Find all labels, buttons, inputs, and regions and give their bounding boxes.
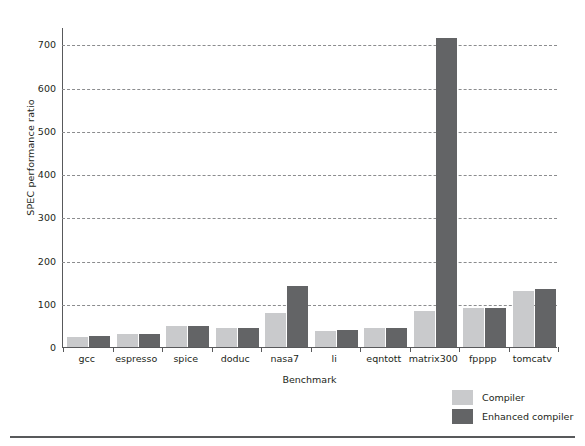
x-tick-mark-tomcatv [509,347,510,352]
bar-group-li [315,27,358,347]
bar-groups [63,28,557,348]
y-tick-label-300: 300 [38,214,56,224]
x-tick-mark-spice [162,347,163,352]
legend-swatch-enhanced-compiler [452,409,473,424]
x-tick-mark-nasa7 [261,347,262,352]
legend-label-enhanced-compiler: Enhanced compiler [482,411,573,422]
legend-item-enhanced-compiler: Enhanced compiler [452,407,573,426]
x-tick-mark-espresso [113,347,114,352]
x-tick-mark-doduc [212,347,213,352]
bar-group-nasa7 [265,27,308,347]
bar-doduc-enhanced-compiler [238,328,259,347]
x-tick-label-doduc: doduc [221,353,250,364]
bar-fpppp-compiler [463,308,484,347]
chart-legend: Compiler Enhanced compiler [452,388,573,426]
bar-espresso-compiler [117,334,138,347]
x-tick-mark-eqntott [360,347,361,352]
y-tick-label-100: 100 [38,300,56,310]
spec-performance-bar-chart: SPEC performance ratio 01002003004005006… [0,0,585,446]
bar-fpppp-enhanced-compiler [485,308,506,347]
legend-item-compiler: Compiler [452,388,573,407]
x-tick-mark-fpppp [459,347,460,352]
y-tick-label-0: 0 [50,343,56,353]
bar-matrix300-compiler [414,311,435,347]
bar-li-compiler [315,331,336,347]
bar-doduc-compiler [216,328,237,347]
bar-tomcatv-compiler [513,291,534,347]
plot-area: 0100200300400500600700 gccespressospiced… [62,28,557,348]
x-tick-label-li: li [332,353,337,364]
bar-group-eqntott [364,27,407,347]
bar-group-doduc [216,27,259,347]
bar-eqntott-compiler [364,328,385,347]
x-tick-mark-li [311,347,312,352]
bar-group-spice [166,27,209,347]
x-tick-label-eqntott: eqntott [366,353,401,364]
bar-spice-compiler [166,326,187,347]
bar-group-matrix300 [414,27,457,347]
x-tick-mark-end [558,347,559,352]
x-tick-label-spice: spice [173,353,198,364]
x-tick-label-fpppp: fpppp [469,353,496,364]
bar-gcc-enhanced-compiler [89,336,110,347]
bar-nasa7-compiler [265,313,286,347]
legend-label-compiler: Compiler [482,392,525,403]
bar-espresso-enhanced-compiler [139,334,160,347]
y-tick-label-600: 600 [38,84,56,94]
bar-eqntott-enhanced-compiler [386,328,407,347]
bar-li-enhanced-compiler [337,330,358,347]
y-tick-label-400: 400 [38,170,56,180]
x-tick-label-nasa7: nasa7 [270,353,299,364]
x-axis-title: Benchmark [62,374,557,385]
bar-matrix300-enhanced-compiler [436,38,457,347]
legend-swatch-compiler [452,390,473,405]
x-tick-label-espresso: espresso [115,353,157,364]
footer-divider [10,436,575,438]
bar-nasa7-enhanced-compiler [287,286,308,347]
x-tick-label-tomcatv: tomcatv [513,353,552,364]
y-axis-title: SPEC performance ratio [25,58,36,258]
bar-group-fpppp [463,27,506,347]
y-tick-label-500: 500 [38,127,56,137]
y-tick-label-200: 200 [38,257,56,267]
bar-gcc-compiler [67,337,88,347]
x-tick-label-gcc: gcc [79,353,95,364]
bar-tomcatv-enhanced-compiler [535,289,556,347]
bar-spice-enhanced-compiler [188,326,209,347]
bar-group-espresso [117,27,160,347]
bar-group-gcc [67,27,110,347]
x-tick-label-matrix300: matrix300 [409,353,458,364]
x-tick-mark-matrix300 [410,347,411,352]
x-tick-mark-gcc [63,347,64,352]
y-tick-label-700: 700 [38,41,56,51]
bar-group-tomcatv [513,27,556,347]
